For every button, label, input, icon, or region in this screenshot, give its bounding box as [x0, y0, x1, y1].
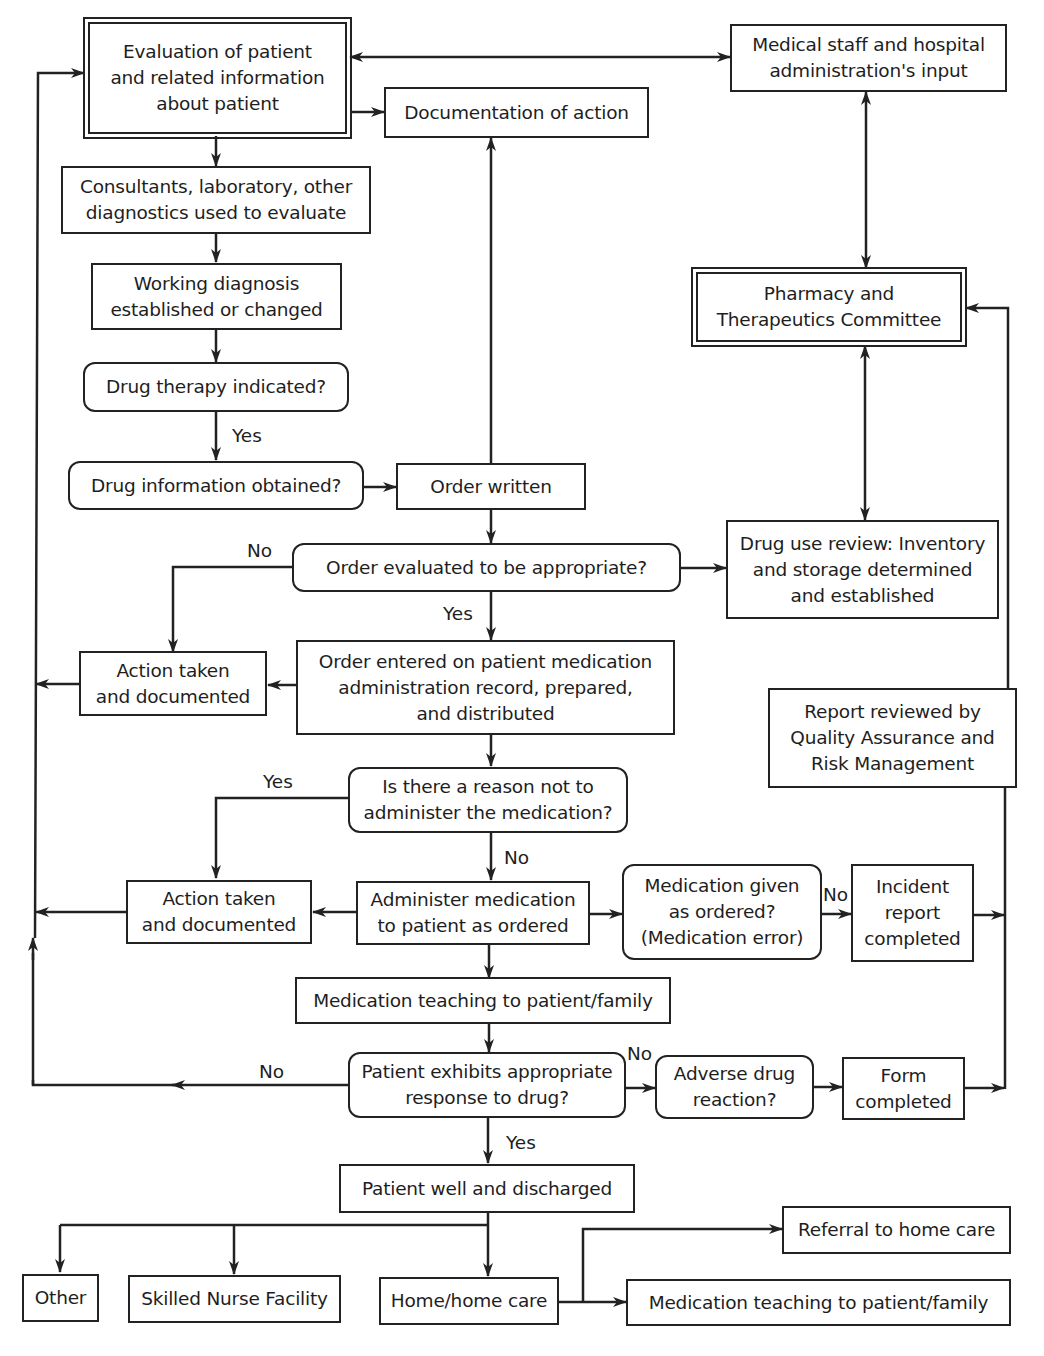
- node-consultants-diagnostics: Consultants, laboratory, other diagnosti…: [61, 166, 371, 234]
- node-reason-not-to-administer: Is there a reason not to administer the …: [348, 767, 628, 833]
- node-order-entered: Order entered on patient medication admi…: [296, 640, 675, 735]
- node-home-care: Home/home care: [379, 1277, 559, 1325]
- node-medical-staff-input: Medical staff and hospital administratio…: [730, 24, 1007, 92]
- node-administer-medication: Administer medication to patient as orde…: [356, 881, 590, 945]
- label-response-no-right: No: [627, 1043, 652, 1065]
- node-patient-discharged: Patient well and discharged: [339, 1164, 635, 1213]
- label-reason-no: No: [504, 847, 529, 869]
- node-patient-response: Patient exhibits appropriate response to…: [348, 1052, 626, 1118]
- node-order-evaluated-appropriate: Order evaluated to be appropriate?: [292, 543, 681, 592]
- node-medication-teaching-2: Medication teaching to patient/family: [626, 1279, 1011, 1326]
- node-evaluation-of-patient: Evaluation of patient and related inform…: [88, 22, 347, 134]
- label-response-yes: Yes: [506, 1132, 536, 1154]
- label-reason-yes: Yes: [263, 771, 293, 793]
- node-drug-therapy-indicated: Drug therapy indicated?: [83, 362, 349, 412]
- node-action-taken-1: Action taken and documented: [79, 651, 267, 716]
- node-other: Other: [22, 1274, 99, 1322]
- node-medication-given-as-ordered: Medication given as ordered? (Medication…: [622, 864, 822, 960]
- node-incident-report: Incident report completed: [851, 864, 974, 962]
- node-drug-information-obtained: Drug information obtained?: [68, 461, 364, 510]
- node-skilled-nurse-facility: Skilled Nurse Facility: [128, 1275, 341, 1323]
- node-action-taken-2: Action taken and documented: [126, 880, 312, 944]
- label-response-no-left: No: [259, 1061, 284, 1083]
- label-therapy-yes: Yes: [232, 425, 262, 447]
- node-documentation-of-action: Documentation of action: [384, 87, 649, 138]
- node-form-completed: Form completed: [842, 1057, 965, 1120]
- node-adverse-drug-reaction: Adverse drug reaction?: [655, 1055, 814, 1119]
- flowchart-canvas: Evaluation of patient and related inform…: [0, 0, 1044, 1356]
- node-order-written: Order written: [396, 463, 586, 510]
- label-ordereval-yes: Yes: [443, 603, 473, 625]
- node-drug-use-review: Drug use review: Inventory and storage d…: [726, 520, 999, 619]
- node-working-diagnosis: Working diagnosis established or changed: [91, 263, 342, 330]
- node-medication-teaching-1: Medication teaching to patient/family: [295, 977, 671, 1024]
- label-ordereval-no: No: [247, 540, 272, 562]
- node-referral-home-care: Referral to home care: [782, 1206, 1011, 1254]
- node-pharmacy-therapeutics-committee: Pharmacy and Therapeutics Committee: [696, 272, 962, 342]
- node-qa-risk-report: Report reviewed by Quality Assurance and…: [768, 688, 1017, 788]
- label-given-no: No: [823, 884, 848, 906]
